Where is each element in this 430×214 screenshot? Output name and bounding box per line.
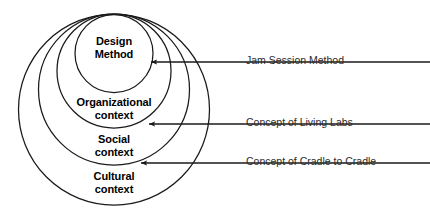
label-cultural-context-line-2: context <box>0 183 329 196</box>
label-social-context-line-1: Social <box>0 133 329 146</box>
label-cultural-context-line-1: Cultural <box>0 170 329 183</box>
diagram-canvas: DesignMethodOrganizationalcontextSocialc… <box>0 0 430 214</box>
callout-label-jam-session-method: Jam Session Method <box>246 54 344 66</box>
label-design-method-line-1: Design <box>0 35 329 48</box>
callout-label-concept-of-cradle-to-cradle: Concept of Cradle to Cradle <box>246 155 376 167</box>
label-organizational-context-line-1: Organizational <box>0 96 329 109</box>
callout-label-concept-of-living-labs: Concept of Living Labs <box>246 116 353 128</box>
label-cultural-context: Culturalcontext <box>0 170 329 195</box>
